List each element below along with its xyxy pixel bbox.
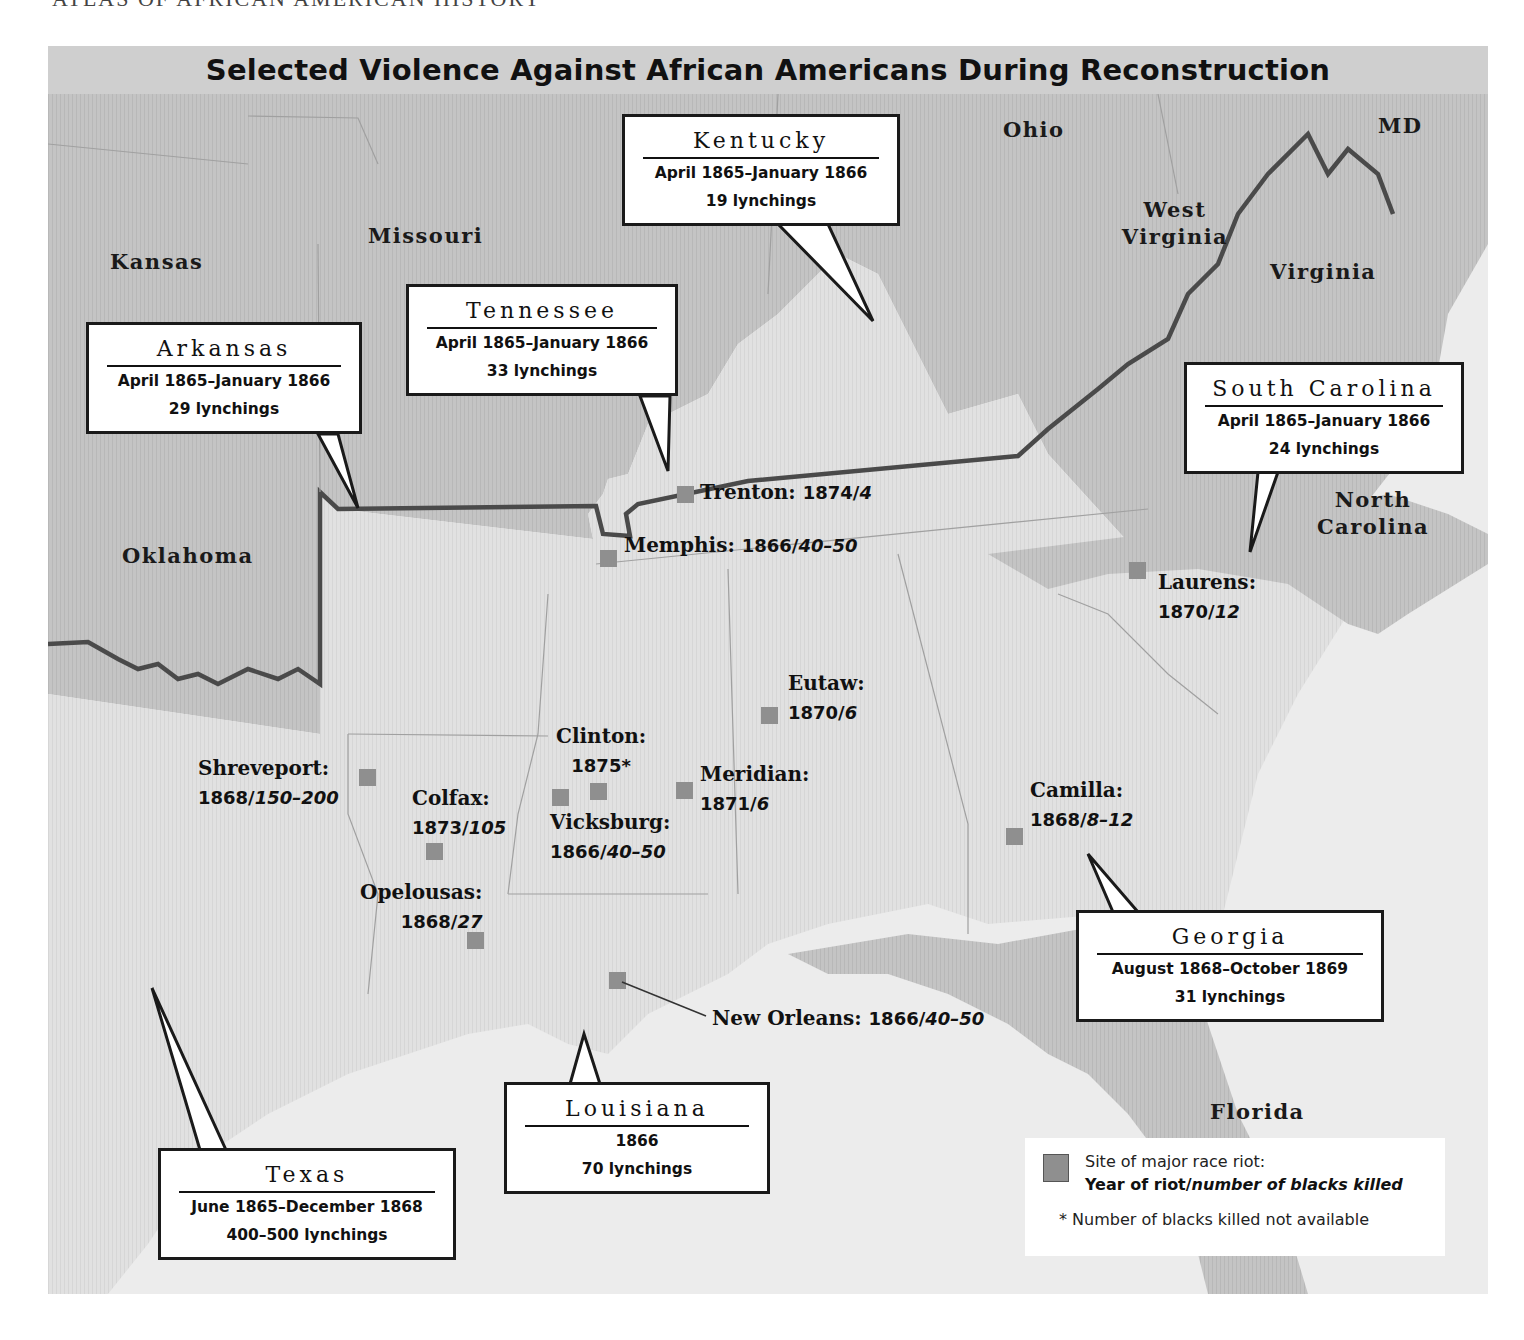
legend-format: Year of riot/number of blacks killed — [1085, 1175, 1403, 1194]
site-label-meridian: Meridian: 1871/6 — [700, 760, 809, 818]
site-label-memphis: Memphis: 1866/40–50 — [624, 531, 858, 560]
new-orleans-leader-line — [48, 46, 1488, 1294]
site-label-camilla: Camilla: 1868/8–12 — [1030, 776, 1133, 834]
site-label-colfax: Colfax: 1873/105 — [412, 784, 506, 842]
running-head: ATLAS OF AFRICAN AMERICAN HISTORY — [52, 0, 542, 12]
site-label-laurens: Laurens: 1870/12 — [1158, 568, 1256, 626]
legend-riot-marker-swatch — [1043, 1154, 1069, 1182]
site-label-new-orleans: New Orleans: 1866/40–50 — [712, 1004, 984, 1033]
map-figure: Selected Violence Against African Americ… — [48, 46, 1488, 1294]
site-label-trenton: Trenton: 1874/4 — [700, 478, 872, 507]
legend-footnote: * Number of blacks killed not available — [1059, 1210, 1369, 1229]
map-legend: Site of major race riot: Year of riot/nu… — [1025, 1138, 1445, 1256]
site-label-vicksburg: Vicksburg: 1866/40–50 — [550, 808, 671, 866]
site-label-eutaw: Eutaw: 1870/6 — [788, 669, 865, 727]
legend-marker-label: Site of major race riot: — [1085, 1152, 1265, 1171]
site-label-clinton: Clinton: 1875* — [556, 722, 646, 780]
site-label-shreveport: Shreveport: 1868/150–200 — [198, 754, 339, 812]
site-label-opelousas: Opelousas: 1868/27 — [360, 878, 482, 936]
